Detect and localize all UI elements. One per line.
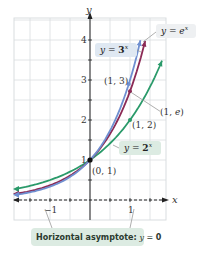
point-label-1-3: (1, 3)	[104, 76, 128, 86]
label-3x-text: y = 3x	[99, 43, 129, 55]
y-axis-label: y	[85, 4, 92, 15]
label-ex-text: y = ex	[160, 24, 189, 36]
y-tick-label: 2	[81, 115, 87, 125]
x-axis-label: x	[172, 194, 178, 205]
y-tick-label: 3	[81, 75, 87, 85]
point-label-1-2: (1, 2)	[132, 120, 156, 130]
asymptote-label: Horizontal asymptote: y = 0	[36, 233, 162, 242]
exponential-functions-chart: −111234 (0, 1)(1, 2)(1, 3)(1, e) y x y =…	[0, 0, 201, 257]
point-0-1	[87, 157, 92, 162]
label-2x-text: y = 2x	[123, 141, 153, 153]
point-label-0-1: (0, 1)	[92, 166, 116, 176]
x-tick-label: −1	[44, 205, 57, 215]
y-tick-label: 4	[81, 35, 87, 45]
point-label-1-e: (1, e)	[160, 107, 184, 117]
